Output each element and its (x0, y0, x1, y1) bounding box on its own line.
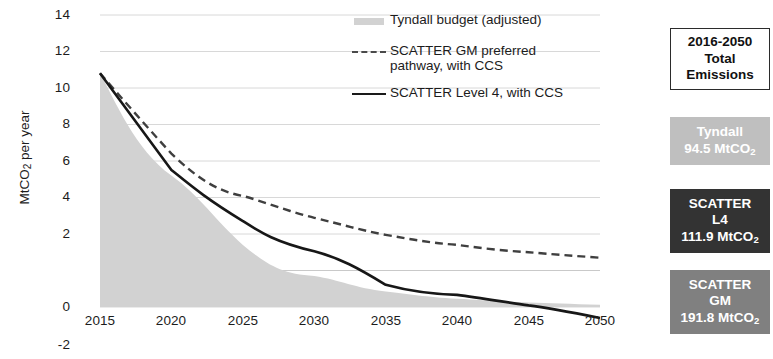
x-tick-2045: 2045 (501, 313, 557, 328)
panel-tyndall-value: 94.5 MtCO2 (684, 141, 755, 159)
panel-header-box: 2016-2050 Total Emissions (670, 28, 770, 90)
legend-label-scatter-gm-line1: SCATTER GM preferred (390, 43, 536, 58)
solid-line-icon (352, 86, 386, 102)
x-tick-2035: 2035 (358, 313, 414, 328)
panel-scatter-gm-value-subscript: 2 (754, 315, 759, 326)
y-tick-14: 14 (26, 7, 70, 22)
y-tick-10: 10 (26, 80, 70, 95)
panel-scatter-gm-box: SCATTER GM 191.8 MtCO2 (670, 270, 770, 334)
panel-scatter-l4-value: 111.9 MtCO2 (681, 229, 758, 247)
panel-header-total: Total (704, 51, 735, 68)
panel-header-period: 2016-2050 (688, 34, 753, 51)
emissions-chart: 14 12 10 8 6 4 2 0 -2 2015 2020 2025 203… (0, 0, 660, 359)
legend-label-scatter-l4: SCATTER Level 4, with CCS (390, 85, 563, 100)
chart-screenshot: 14 12 10 8 6 4 2 0 -2 2015 2020 2025 203… (0, 0, 773, 359)
y-axis-title: MtCO2 per year (17, 78, 32, 238)
x-tick-2025: 2025 (215, 313, 271, 328)
panel-scatter-l4-value-subscript: 2 (753, 234, 758, 245)
legend-item-scatter-l4: SCATTER Level 4, with CCS (352, 85, 652, 102)
panel-scatter-gm-name-line2: GM (709, 293, 731, 310)
panel-header-emissions: Emissions (686, 67, 754, 84)
panel-scatter-l4-name-line2: L4 (712, 212, 728, 229)
panel-tyndall-value-number: 94.5 MtCO (684, 141, 750, 156)
area-swatch-icon (352, 13, 386, 29)
x-tick-2020: 2020 (143, 313, 199, 328)
panel-scatter-gm-name-line1: SCATTER (689, 277, 752, 294)
x-tick-2015: 2015 (72, 313, 128, 328)
legend-label-scatter-gm-line2: pathway, with CCS (390, 58, 503, 73)
y-tick-6: 6 (26, 153, 70, 168)
legend-item-tyndall: Tyndall budget (adjusted) (352, 12, 652, 29)
dashed-line-icon (352, 44, 386, 60)
chart-legend: Tyndall budget (adjusted) SCATTER GM pre… (352, 12, 652, 116)
y-tick-12: 12 (26, 43, 70, 58)
legend-item-scatter-gm: SCATTER GM preferredpathway, with CCS (352, 43, 652, 73)
y-axis-title-subscript: 2 (22, 164, 33, 170)
panel-scatter-gm-value: 191.8 MtCO2 (681, 310, 760, 328)
panel-tyndall-value-subscript: 2 (750, 146, 755, 157)
legend-label-tyndall: Tyndall budget (adjusted) (390, 12, 542, 27)
panel-scatter-l4-name-line1: SCATTER (689, 196, 752, 213)
x-tick-2030: 2030 (286, 313, 342, 328)
y-tick-neg2: -2 (26, 337, 70, 352)
panel-scatter-gm-value-number: 191.8 MtCO (681, 310, 755, 325)
y-tick-8: 8 (26, 116, 70, 131)
total-emissions-panel: 2016-2050 Total Emissions Tyndall 94.5 M… (670, 0, 773, 359)
x-tick-2040: 2040 (429, 313, 485, 328)
y-tick-0: 0 (26, 299, 70, 314)
y-tick-4: 4 (26, 189, 70, 204)
panel-scatter-l4-box: SCATTER L4 111.9 MtCO2 (670, 189, 770, 253)
panel-scatter-l4-value-number: 111.9 MtCO (681, 229, 753, 244)
x-tick-2050: 2050 (572, 313, 628, 328)
y-tick-2: 2 (26, 226, 70, 241)
y-axis-title-main: MtCO (17, 169, 32, 204)
panel-tyndall-box: Tyndall 94.5 MtCO2 (670, 117, 770, 165)
panel-tyndall-name: Tyndall (697, 124, 743, 141)
y-axis-title-tail: per year (17, 110, 32, 163)
